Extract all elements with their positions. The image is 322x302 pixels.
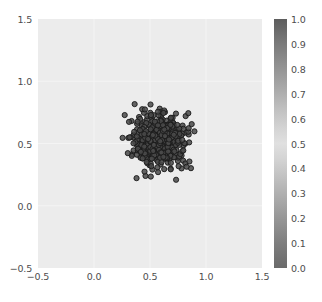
scatter-point: [189, 122, 194, 127]
scatter-point: [148, 112, 153, 117]
figure-canvas: −0.50.00.51.01.5 −0.50.00.51.01.5 1.00.9…: [0, 0, 322, 302]
scatter-point: [168, 160, 173, 165]
y-tick-label-1: 0.0: [0, 200, 32, 211]
scatter-point: [173, 177, 178, 182]
colorbar-tick-label-0: 1.0: [291, 14, 306, 25]
scatter-point: [140, 156, 145, 161]
scatter-point: [162, 127, 167, 132]
x-tick-label-3: 1.0: [186, 271, 226, 282]
scatter-point: [172, 149, 177, 154]
x-tick-label-0: −0.5: [18, 271, 58, 282]
scatter-point: [181, 148, 186, 153]
scatter-point: [120, 135, 125, 140]
scatter-point: [131, 141, 136, 146]
scatter-point: [186, 111, 191, 116]
colorbar-tick-label-9: 0.1: [291, 238, 306, 249]
x-tick-label-1: 0.0: [74, 271, 114, 282]
scatter-point: [122, 112, 127, 117]
x-tick-label-4: 1.5: [242, 271, 282, 282]
scatter-point: [151, 142, 156, 147]
x-tick-label-2: 0.5: [130, 271, 170, 282]
scatter-point: [135, 119, 140, 124]
scatter-point: [192, 129, 197, 134]
scatter-point: [171, 132, 176, 137]
scatter-point: [150, 132, 155, 137]
scatter-point: [138, 149, 143, 154]
colorbar-tick-label-8: 0.2: [291, 213, 306, 224]
scatter-point: [168, 122, 173, 127]
plot-area: [38, 19, 262, 268]
scatter-point: [187, 159, 192, 164]
scatter-point: [151, 148, 156, 153]
scatter-point: [166, 149, 171, 154]
colorbar-tick-label-2: 0.8: [291, 63, 306, 74]
colorbar: [274, 19, 287, 268]
scatter-point: [168, 167, 173, 172]
scatter-point: [127, 135, 132, 140]
scatter-point: [146, 136, 151, 141]
scatter-point: [155, 109, 160, 114]
colorbar-tick-label-1: 0.9: [291, 38, 306, 49]
scatter-point: [161, 154, 166, 159]
scatter-point: [176, 164, 181, 169]
scatter-point: [126, 119, 131, 124]
scatter-point: [184, 164, 189, 169]
scatter-point: [155, 123, 160, 128]
scatter-point: [162, 167, 167, 172]
scatter-point: [137, 128, 142, 133]
scatter-point: [162, 133, 167, 138]
scatter-point: [142, 144, 147, 149]
scatter-point: [125, 151, 130, 156]
scatter-point: [175, 122, 180, 127]
colorbar-tick-label-5: 0.5: [291, 138, 306, 149]
scatter-point: [148, 102, 153, 107]
scatter-point: [148, 174, 153, 179]
y-tick-label-3: 1.0: [0, 76, 32, 87]
scatter-point: [134, 134, 139, 139]
scatter-point: [149, 156, 154, 161]
scatter-point: [168, 115, 173, 120]
colorbar-tick-label-4: 0.6: [291, 113, 306, 124]
scatter-point: [142, 169, 147, 174]
colorbar-tick-label-7: 0.3: [291, 188, 306, 199]
y-tick-label-4: 1.5: [0, 14, 32, 25]
scatter-point: [180, 137, 185, 142]
scatter-point: [155, 165, 160, 170]
scatter-point: [149, 164, 154, 169]
scatter-point: [134, 176, 139, 181]
scatter-point: [132, 102, 137, 107]
scatter-point: [142, 131, 147, 136]
y-tick-label-2: 0.5: [0, 138, 32, 149]
colorbar-tick-label-6: 0.4: [291, 163, 306, 174]
scatter-point: [161, 110, 166, 115]
colorbar-tick-label-10: 0.0: [291, 263, 306, 274]
colorbar-tick-label-3: 0.7: [291, 88, 306, 99]
scatter-points: [38, 19, 262, 268]
scatter-point: [158, 139, 163, 144]
scatter-point: [142, 107, 147, 112]
